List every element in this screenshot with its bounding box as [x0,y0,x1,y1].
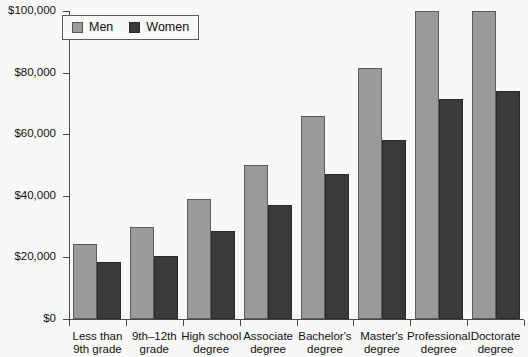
y-axis-tick [63,11,70,12]
y-axis-tick-label: $80,000 [14,67,56,79]
y-axis-tick [63,196,70,197]
legend-label-men: Men [89,21,113,34]
category-label-line: degree [463,343,528,356]
men-swatch-icon [72,22,83,33]
x-axis-tick [353,320,354,326]
bar-chart: $0$20,000$40,000$60,000$80,000$100,000 L… [0,0,528,357]
women-swatch-icon [129,22,140,33]
category-label-line: Doctorate [463,330,528,343]
legend-label-women: Women [146,21,189,34]
x-axis-category-label: High schooldegree [179,330,244,355]
bar-women [211,231,235,319]
y-axis-tick-label: $0 [43,313,56,325]
category-label-line: degree [236,343,301,356]
bar-women [97,262,121,319]
y-axis-tick-label: $40,000 [14,190,56,202]
legend-entry-men: Men [72,21,113,34]
x-axis-category-label: Doctoratedegree [463,330,528,355]
x-axis-tick [297,320,298,326]
bar-men [472,11,496,319]
category-label-line: Master's [349,330,414,343]
x-axis-category-label: Bachelor'sdegree [293,330,358,355]
category-label-line: 9th–12th [122,330,187,343]
legend: Men Women [62,15,199,40]
x-axis-category-label: Master'sdegree [349,330,414,355]
x-axis-category-label: Less than9th grade [65,330,130,355]
y-axis-tick [63,73,70,74]
x-axis-tick [524,320,525,326]
category-label-line: Less than [65,330,130,343]
category-label-line: 9th grade [65,343,130,356]
bar-men [187,199,211,319]
category-label-line: degree [406,343,471,356]
x-axis-category-label: 9th–12thgrade [122,330,187,355]
bar-women [382,140,406,319]
bar-women [268,205,292,319]
x-axis-tick [410,320,411,326]
category-label-line: degree [293,343,358,356]
bar-women [325,174,349,319]
y-axis-tick-label: $100,000 [8,5,56,17]
bar-men [244,165,268,319]
x-axis-tick [467,320,468,326]
y-axis-tick [63,134,70,135]
y-axis-tick [63,257,70,258]
bar-men [73,244,97,319]
x-axis-tick-origin [69,320,70,326]
bar-men [130,227,154,319]
bar-women [496,91,520,319]
bar-men [358,68,382,319]
x-axis-tick [126,320,127,326]
x-axis-category-label: Professionaldegree [406,330,471,355]
bar-women [439,99,463,319]
bar-women [154,256,178,319]
y-axis-tick-label: $60,000 [14,128,56,140]
x-axis-tick [240,320,241,326]
y-axis-tick-label: $20,000 [14,251,56,263]
bar-men [301,116,325,319]
category-label-line: degree [349,343,414,356]
category-label-line: Professional [406,330,471,343]
category-label-line: grade [122,343,187,356]
category-label-line: degree [179,343,244,356]
x-axis-tick [183,320,184,326]
category-label-line: High school [179,330,244,343]
y-axis-line [69,11,70,320]
legend-entry-women: Women [129,21,189,34]
category-label-line: Bachelor's [293,330,358,343]
category-label-line: Associate [236,330,301,343]
bar-men [415,11,439,319]
x-axis-category-label: Associatedegree [236,330,301,355]
